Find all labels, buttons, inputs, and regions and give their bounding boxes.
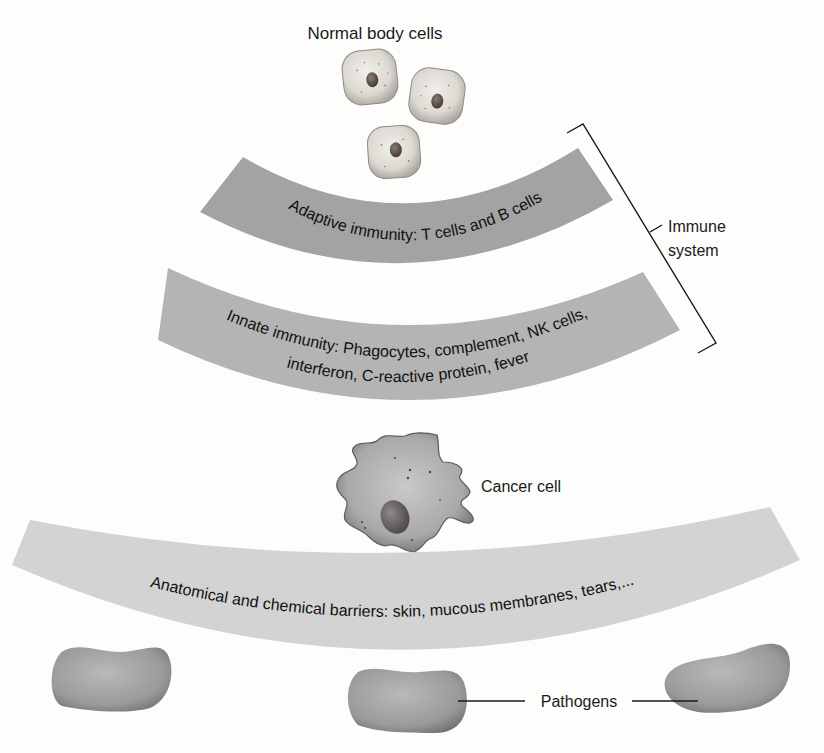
pathogens [52, 644, 790, 733]
immune-system-label-line2: system [668, 242, 719, 259]
diagram-canvas: Normal body cells Adaptive immunity: T [0, 0, 824, 753]
cancer-cell-icon [337, 433, 474, 552]
pathogens-label: Pathogens [541, 693, 618, 710]
normal-body-cells [340, 47, 467, 179]
pathogen-icon [665, 644, 790, 713]
normal-cell-icon [340, 47, 399, 106]
normal-cell-icon [366, 124, 422, 180]
cancer-cell-label: Cancer cell [481, 478, 561, 495]
normal-body-cells-label: Normal body cells [307, 24, 442, 43]
pathogen-icon [52, 647, 172, 711]
immune-defense-diagram: Normal body cells Adaptive immunity: T [0, 0, 824, 753]
normal-cell-icon [407, 66, 468, 127]
pathogen-icon [348, 669, 467, 733]
innate-immunity-band: Innate immunity: Phagocytes, complement,… [158, 268, 680, 400]
immune-system-label-line1: Immune [668, 218, 726, 235]
